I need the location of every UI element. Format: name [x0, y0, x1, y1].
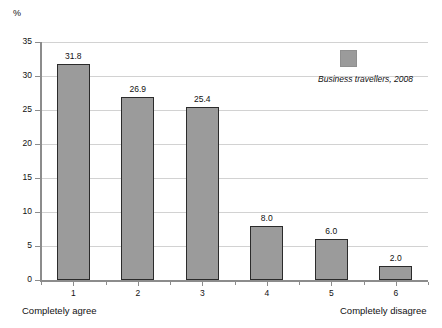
- bar: [57, 64, 90, 280]
- x-axis-minor-tick: [235, 282, 236, 285]
- y-axis-tick-label: 5: [8, 241, 32, 250]
- x-axis-tick: [267, 282, 268, 286]
- x-axis-tick-label: 4: [252, 288, 282, 298]
- gridline: [41, 42, 428, 43]
- bar-value-label: 26.9: [118, 84, 158, 94]
- x-axis-tick: [331, 282, 332, 286]
- x-axis-tick-label: 5: [316, 288, 346, 298]
- x-axis-tick: [73, 282, 74, 286]
- x-axis-minor-tick: [106, 282, 107, 285]
- x-axis-tick: [138, 282, 139, 286]
- x-axis-minor-tick: [41, 282, 42, 285]
- bar-value-label: 8.0: [247, 213, 287, 223]
- y-axis-tick-label: 15: [8, 173, 32, 182]
- y-axis-tick: [35, 42, 40, 43]
- y-axis-tick-label: 25: [8, 105, 32, 114]
- y-axis-tick-label: 0: [8, 275, 32, 284]
- scale-caption-low: Completely agree: [22, 305, 96, 317]
- bar: [186, 107, 219, 280]
- x-axis-minor-tick: [299, 282, 300, 285]
- bar-value-label: 31.8: [53, 51, 93, 61]
- y-axis-tick-label: 30: [8, 71, 32, 80]
- y-axis-tick: [35, 246, 40, 247]
- bar: [379, 266, 412, 280]
- bar-value-label: 25.4: [182, 94, 222, 104]
- bar-value-label: 2.0: [376, 253, 416, 263]
- y-axis-line: [40, 42, 42, 281]
- x-axis-tick-label: 1: [58, 288, 88, 298]
- x-axis-tick: [202, 282, 203, 286]
- x-axis-tick-label: 3: [187, 288, 217, 298]
- y-axis-tick: [35, 178, 40, 179]
- scale-caption-high: Completely disagree: [340, 305, 427, 317]
- bar-chart: % 05101520253035 123456 31.826.925.48.06…: [0, 0, 442, 328]
- y-axis-tick: [35, 144, 40, 145]
- y-axis-tick-label: 10: [8, 207, 32, 216]
- gridline: [41, 110, 428, 111]
- y-axis-unit-label: %: [13, 7, 21, 19]
- x-axis-minor-tick: [170, 282, 171, 285]
- legend-swatch-business-travellers: [340, 50, 357, 67]
- bar: [250, 226, 283, 280]
- x-axis-tick-label: 6: [381, 288, 411, 298]
- x-axis-tick: [396, 282, 397, 286]
- y-axis-tick: [35, 76, 40, 77]
- x-axis-minor-tick: [364, 282, 365, 285]
- y-axis-tick: [35, 110, 40, 111]
- gridline: [41, 212, 428, 213]
- gridline: [41, 246, 428, 247]
- y-axis-tick-label: 20: [8, 139, 32, 148]
- bar: [121, 97, 154, 280]
- y-axis-tick: [35, 212, 40, 213]
- bar: [315, 239, 348, 280]
- gridline: [41, 178, 428, 179]
- legend: Business travellers, 2008: [338, 50, 438, 67]
- legend-label-business-travellers: Business travellers, 2008: [318, 74, 440, 84]
- y-axis-tick-label: 35: [8, 37, 32, 46]
- gridline: [41, 144, 428, 145]
- bar-value-label: 6.0: [311, 226, 351, 236]
- x-axis-minor-tick: [428, 282, 429, 285]
- x-axis-tick-label: 2: [123, 288, 153, 298]
